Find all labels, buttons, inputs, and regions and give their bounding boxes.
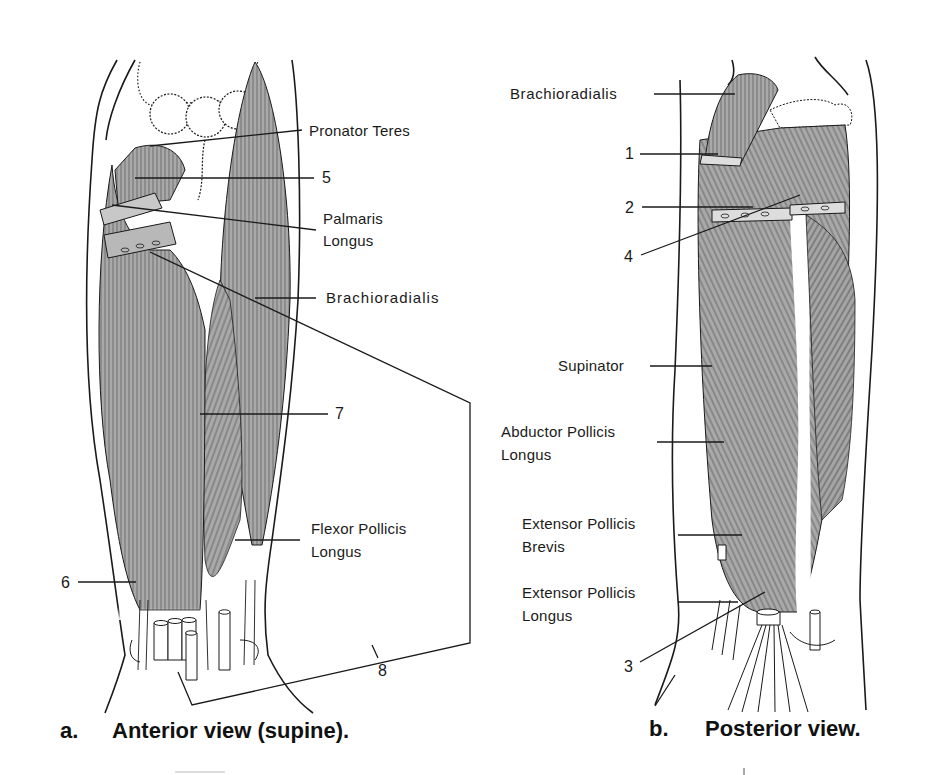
label-abductor-pollicis-longus-line1: Abductor Pollicis [501,421,615,443]
label-number-3: 3 [624,656,633,678]
label-pronator-teres: Pronator Teres [309,120,410,142]
label-extensor-pollicis-longus-line1: Extensor Pollicis [522,582,635,604]
label-palmaris-longus-line2: Longus [323,230,373,252]
caption-text-b: Posterior view. [705,716,861,741]
label-abductor-pollicis-longus-line2: Longus [501,444,551,466]
label-flexor-pollicis-longus-line1: Flexor Pollicis [311,518,407,540]
label-extensor-pollicis-longus-line2: Longus [522,605,572,627]
caption-anterior-view: a.Anterior view (supine). [60,718,349,744]
label-number-8: 8 [378,660,387,682]
posterior-cut-stub-2 [712,208,792,222]
label-brachioradialis-anterior: Brachioradialis [326,287,439,309]
anterior-forearm-illustration [0,0,938,775]
label-number-1: 1 [625,143,634,165]
label-number-5: 5 [322,167,331,189]
label-supinator: Supinator [558,355,624,377]
anatomy-figure: Pronator Teres 5 Palmaris Longus Brachio… [0,0,938,775]
caption-posterior-view: b.Posterior view. [649,716,861,742]
label-palmaris-longus-line1: Palmaris [323,208,383,230]
label-flexor-pollicis-longus-line2: Longus [311,541,361,563]
label-number-6: 6 [61,572,70,594]
caption-text-a: Anterior view (supine). [112,718,349,743]
label-brachioradialis-posterior: Brachioradialis [510,83,617,105]
label-number-2: 2 [625,197,634,219]
label-number-4: 4 [624,246,633,268]
label-extensor-pollicis-brevis-line2: Brevis [522,536,565,558]
caption-prefix-a: a. [60,718,112,744]
label-number-7: 7 [335,403,344,425]
posterior-olecranon-bone [770,100,852,128]
label-extensor-pollicis-brevis-line1: Extensor Pollicis [522,513,635,535]
anterior-wrist-tendons [130,610,258,680]
caption-prefix-b: b. [649,716,705,742]
